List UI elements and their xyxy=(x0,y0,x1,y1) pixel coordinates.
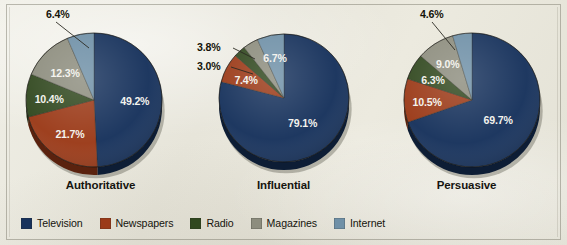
pie-chart-influential: 79.1%7.4%3.0%3.8%6.7% Influential xyxy=(189,0,378,205)
legend-label: Newspapers xyxy=(116,217,174,229)
slice-label: 10.4% xyxy=(35,93,65,105)
slice-label: 49.2% xyxy=(120,95,150,107)
legend-label: Internet xyxy=(350,217,385,229)
legend-swatch-icon xyxy=(21,218,32,229)
pie-chart-authoritative: 49.2%21.7%10.4%12.3%6.4% Authoritative xyxy=(6,0,195,205)
legend-item[interactable]: Newspapers xyxy=(100,217,174,229)
pie-plot-area: 49.2%21.7%10.4%12.3%6.4% xyxy=(6,0,195,178)
pie-plot-area: 69.7%10.5%6.3%9.0%4.6% xyxy=(372,0,561,178)
legend-swatch-icon xyxy=(100,218,111,229)
legend-label: Magazines xyxy=(267,217,317,229)
legend-item[interactable]: Magazines xyxy=(251,217,317,229)
legend-swatch-icon xyxy=(334,218,345,229)
chart-title: Authoritative xyxy=(6,179,195,191)
legend-swatch-icon xyxy=(190,218,201,229)
legend: TelevisionNewspapersRadioMagazinesIntern… xyxy=(0,208,567,238)
pie-chart-persuasive: 69.7%10.5%6.3%9.0%4.6% Persuasive xyxy=(372,0,561,205)
slice-label: 3.0% xyxy=(197,60,221,72)
pie-plot-area: 79.1%7.4%3.0%3.8%6.7% xyxy=(189,0,378,178)
slice-label: 6.4% xyxy=(46,8,70,20)
pie-svg: 49.2%21.7%10.4%12.3%6.4% xyxy=(6,0,195,178)
pie-chart-figure: 49.2%21.7%10.4%12.3%6.4% Authoritative 7… xyxy=(0,0,567,245)
slice-label: 6.7% xyxy=(263,52,287,64)
legend-label: Television xyxy=(37,217,83,229)
slice-label: 10.5% xyxy=(413,96,443,108)
slice-label: 4.6% xyxy=(420,8,444,20)
legend-swatch-icon xyxy=(251,218,262,229)
slice-label: 12.3% xyxy=(51,67,81,79)
legend-item[interactable]: Radio xyxy=(190,217,233,229)
slice-label: 21.7% xyxy=(55,128,85,140)
slice-label: 7.4% xyxy=(234,74,258,86)
slice-label: 3.8% xyxy=(197,41,221,53)
slice-label: 9.0% xyxy=(436,58,460,70)
pie-svg: 69.7%10.5%6.3%9.0%4.6% xyxy=(372,0,561,178)
pie-svg: 79.1%7.4%3.0%3.8%6.7% xyxy=(189,0,378,178)
legend-item[interactable]: Internet xyxy=(334,217,385,229)
slice-label: 6.3% xyxy=(421,74,445,86)
legend-item[interactable]: Television xyxy=(21,217,83,229)
chart-title: Influential xyxy=(189,179,378,191)
chart-title: Persuasive xyxy=(372,179,561,191)
legend-label: Radio xyxy=(206,217,233,229)
slice-label: 69.7% xyxy=(484,114,514,126)
slice-label: 79.1% xyxy=(288,117,318,129)
